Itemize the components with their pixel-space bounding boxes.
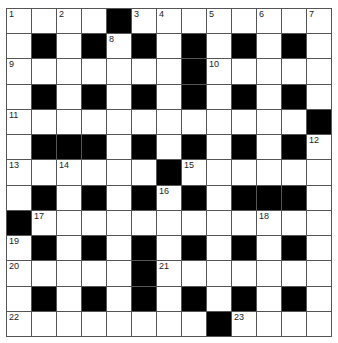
answer-cell[interactable] (107, 59, 131, 83)
answer-cell[interactable] (57, 287, 81, 311)
answer-cell[interactable] (32, 160, 56, 184)
answer-cell[interactable]: 16 (157, 186, 181, 210)
answer-cell[interactable] (57, 110, 81, 134)
answer-cell[interactable] (32, 110, 56, 134)
answer-cell[interactable]: 2 (57, 9, 81, 33)
answer-cell[interactable] (107, 85, 131, 109)
answer-cell[interactable] (107, 236, 131, 260)
answer-cell[interactable] (257, 110, 281, 134)
answer-cell[interactable]: 18 (257, 211, 281, 235)
answer-cell[interactable] (132, 110, 156, 134)
answer-cell[interactable]: 12 (307, 135, 331, 159)
answer-cell[interactable] (82, 312, 106, 336)
answer-cell[interactable] (282, 160, 306, 184)
answer-cell[interactable] (82, 160, 106, 184)
answer-cell[interactable] (257, 85, 281, 109)
answer-cell[interactable] (182, 211, 206, 235)
answer-cell[interactable] (257, 261, 281, 285)
answer-cell[interactable]: 1 (7, 9, 31, 33)
answer-cell[interactable] (182, 261, 206, 285)
answer-cell[interactable] (7, 287, 31, 311)
answer-cell[interactable] (107, 110, 131, 134)
answer-cell[interactable] (257, 236, 281, 260)
answer-cell[interactable]: 11 (7, 110, 31, 134)
answer-cell[interactable] (57, 312, 81, 336)
answer-cell[interactable] (307, 34, 331, 58)
answer-cell[interactable] (307, 261, 331, 285)
answer-cell[interactable] (182, 312, 206, 336)
answer-cell[interactable] (107, 160, 131, 184)
answer-cell[interactable] (57, 34, 81, 58)
answer-cell[interactable] (132, 211, 156, 235)
answer-cell[interactable] (157, 59, 181, 83)
answer-cell[interactable] (282, 110, 306, 134)
answer-cell[interactable] (157, 236, 181, 260)
answer-cell[interactable]: 13 (7, 160, 31, 184)
answer-cell[interactable] (307, 85, 331, 109)
answer-cell[interactable] (107, 312, 131, 336)
answer-cell[interactable]: 22 (7, 312, 31, 336)
answer-cell[interactable] (82, 9, 106, 33)
answer-cell[interactable] (182, 110, 206, 134)
answer-cell[interactable] (307, 59, 331, 83)
answer-cell[interactable] (32, 261, 56, 285)
answer-cell[interactable] (307, 312, 331, 336)
answer-cell[interactable] (82, 211, 106, 235)
answer-cell[interactable]: 19 (7, 236, 31, 260)
answer-cell[interactable] (107, 287, 131, 311)
answer-cell[interactable] (157, 135, 181, 159)
answer-cell[interactable] (232, 110, 256, 134)
answer-cell[interactable] (32, 312, 56, 336)
answer-cell[interactable]: 9 (7, 59, 31, 83)
answer-cell[interactable] (307, 211, 331, 235)
answer-cell[interactable] (232, 59, 256, 83)
answer-cell[interactable] (57, 186, 81, 210)
answer-cell[interactable] (257, 312, 281, 336)
answer-cell[interactable]: 23 (232, 312, 256, 336)
answer-cell[interactable] (7, 186, 31, 210)
answer-cell[interactable] (282, 59, 306, 83)
answer-cell[interactable]: 15 (182, 160, 206, 184)
answer-cell[interactable] (57, 59, 81, 83)
answer-cell[interactable]: 7 (307, 9, 331, 33)
answer-cell[interactable] (107, 135, 131, 159)
answer-cell[interactable] (57, 85, 81, 109)
answer-cell[interactable] (232, 160, 256, 184)
answer-cell[interactable] (207, 110, 231, 134)
answer-cell[interactable] (57, 261, 81, 285)
answer-cell[interactable] (207, 160, 231, 184)
answer-cell[interactable] (207, 34, 231, 58)
answer-cell[interactable]: 8 (107, 34, 131, 58)
answer-cell[interactable] (157, 110, 181, 134)
answer-cell[interactable] (132, 312, 156, 336)
answer-cell[interactable] (207, 261, 231, 285)
answer-cell[interactable] (257, 135, 281, 159)
answer-cell[interactable]: 21 (157, 261, 181, 285)
answer-cell[interactable] (307, 160, 331, 184)
answer-cell[interactable] (7, 85, 31, 109)
answer-cell[interactable] (257, 160, 281, 184)
answer-cell[interactable] (282, 211, 306, 235)
answer-cell[interactable] (132, 160, 156, 184)
answer-cell[interactable] (207, 186, 231, 210)
answer-cell[interactable] (7, 135, 31, 159)
answer-cell[interactable] (282, 261, 306, 285)
answer-cell[interactable] (282, 312, 306, 336)
answer-cell[interactable]: 4 (157, 9, 181, 33)
answer-cell[interactable]: 14 (57, 160, 81, 184)
answer-cell[interactable] (207, 135, 231, 159)
answer-cell[interactable] (207, 211, 231, 235)
answer-cell[interactable]: 6 (257, 9, 281, 33)
answer-cell[interactable] (82, 59, 106, 83)
answer-cell[interactable] (7, 34, 31, 58)
answer-cell[interactable] (207, 85, 231, 109)
answer-cell[interactable] (257, 34, 281, 58)
answer-cell[interactable] (307, 236, 331, 260)
answer-cell[interactable] (257, 59, 281, 83)
answer-cell[interactable] (57, 211, 81, 235)
answer-cell[interactable]: 5 (207, 9, 231, 33)
answer-cell[interactable]: 17 (32, 211, 56, 235)
answer-cell[interactable] (32, 9, 56, 33)
answer-cell[interactable] (157, 287, 181, 311)
answer-cell[interactable] (107, 261, 131, 285)
